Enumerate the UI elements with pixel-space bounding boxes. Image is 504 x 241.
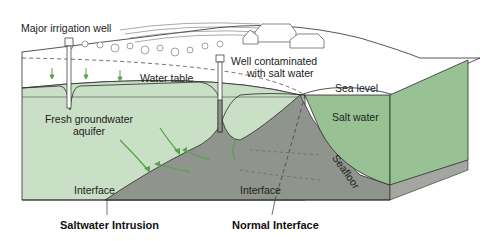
label-major-irrigation-well: Major irrigation well: [21, 22, 111, 34]
label-interface-right: Interface: [240, 184, 281, 196]
saltwater-intrusion-diagram: Major irrigation well Well contaminated …: [0, 0, 504, 241]
label-fresh-groundwater: Fresh groundwater aquifer: [44, 113, 134, 137]
label-salt-water: Salt water: [332, 111, 379, 123]
label-interface-left: Interface: [74, 184, 115, 196]
label-with-salt-water: with salt water: [247, 67, 314, 79]
label-fresh-groundwater-line1: Fresh groundwater: [44, 113, 134, 125]
label-well-contaminated: Well contaminated: [231, 55, 317, 67]
label-sea-level: Sea level: [335, 82, 378, 94]
caption-saltwater-intrusion: Saltwater Intrusion: [60, 219, 159, 231]
label-fresh-groundwater-line2: aquifer: [44, 125, 134, 137]
label-water-table: Water table: [140, 72, 193, 84]
caption-normal-interface: Normal Interface: [232, 219, 319, 231]
